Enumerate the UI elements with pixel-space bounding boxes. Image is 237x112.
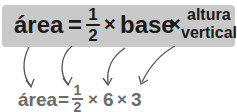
sub-height-value: 3	[131, 89, 142, 111]
sub-equals: =	[58, 89, 69, 111]
sub-times-1: ×	[88, 90, 98, 110]
sub-fraction-denominator: 2	[74, 99, 82, 112]
sub-times-2: ×	[117, 90, 127, 110]
sub-fraction: 1 2	[72, 84, 83, 112]
arrow-base	[108, 48, 125, 84]
sub-fraction-numerator: 1	[74, 82, 82, 98]
arrow-height	[142, 46, 175, 82]
sub-base-value: 6	[103, 89, 114, 111]
arrow-area	[24, 47, 31, 86]
sub-area: área	[18, 89, 57, 111]
